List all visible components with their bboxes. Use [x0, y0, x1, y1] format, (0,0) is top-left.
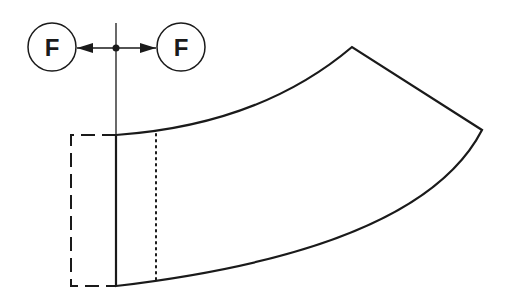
- pivot-point: [113, 45, 120, 52]
- beam-bending-diagram: F F: [0, 0, 512, 300]
- force-right: F: [157, 23, 205, 71]
- arrow-right-icon: [140, 43, 156, 53]
- force-label-left: F: [45, 34, 60, 61]
- arrow-left-icon: [77, 43, 93, 53]
- curved-beam-outline: [116, 47, 482, 286]
- force-left: F: [28, 23, 76, 71]
- force-label-right: F: [174, 34, 189, 61]
- original-position-outline: [71, 135, 116, 286]
